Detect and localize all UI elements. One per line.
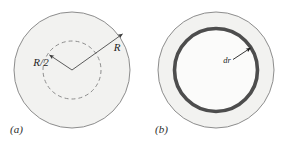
panel-a: R/2 R (a) [10, 12, 130, 136]
panel-b: dr (b) [155, 12, 274, 136]
panel-b-inner-disk [176, 30, 256, 110]
figure-container: R/2 R (a) dr (b) [0, 0, 291, 142]
panel-a-caption: (a) [10, 123, 23, 136]
panel-b-ring-thickness-label: dr [223, 55, 231, 65]
panel-b-caption: (b) [155, 123, 168, 136]
panel-a-radius-half-label: R/2 [32, 56, 49, 68]
figure-canvas: R/2 R (a) dr (b) [0, 0, 291, 142]
panel-a-radius-full-label: R [113, 41, 121, 53]
